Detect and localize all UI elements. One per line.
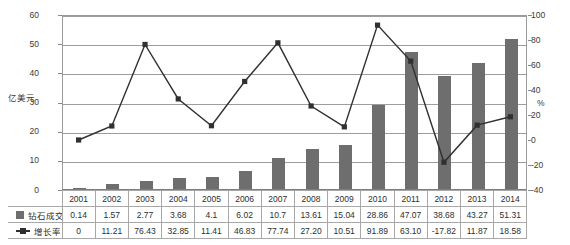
- bar: [106, 184, 119, 189]
- y-tick-label-left: 10: [0, 156, 39, 165]
- bar: [140, 181, 153, 189]
- table-cell-year: 2004: [162, 191, 195, 207]
- table-cell-year: 2007: [261, 191, 294, 207]
- legend-bar-cell: 钻石成交额: [8, 207, 62, 223]
- square-swatch-icon: [16, 211, 24, 219]
- table-cell-bar-value: 51.31: [494, 207, 527, 223]
- gridline: [63, 16, 526, 17]
- table-cell-year: 2010: [361, 191, 394, 207]
- table-cell-bar-value: 43.27: [460, 207, 493, 223]
- table-cell-line-value: -17.82: [427, 223, 460, 239]
- y-tick-label-right: 20: [531, 111, 570, 120]
- table-cell-bar-value: 3.68: [162, 207, 195, 223]
- y-tick-label-right: 100: [531, 11, 570, 20]
- table-cell-bar-value: 13.61: [294, 207, 327, 223]
- table-cell-bar-value: 28.86: [361, 207, 394, 223]
- y-tick-mark-right: [528, 65, 532, 66]
- bar: [206, 177, 219, 189]
- table-cell-year: 2001: [62, 191, 95, 207]
- table-cell-line-value: 10.51: [328, 223, 361, 239]
- table-cell-bar-value: 0.14: [62, 207, 95, 223]
- table-cell-bar-value: 10.7: [261, 207, 294, 223]
- bar: [472, 63, 485, 189]
- table-cell-line-value: 32.85: [162, 223, 195, 239]
- y-tick-label-left: 60: [0, 11, 39, 20]
- line-marker-icon: [16, 227, 30, 235]
- y-tick-label-left: 40: [0, 69, 39, 78]
- bar: [405, 52, 418, 189]
- y-tick-mark-right: [528, 140, 532, 141]
- table-cell-bar-value: 2.77: [128, 207, 161, 223]
- y-tick-mark-right: [528, 15, 532, 16]
- y-tick-label-right: -20: [531, 161, 570, 170]
- y-tick-label-right: 0: [531, 136, 570, 145]
- y-tick-label-left: 30: [0, 98, 39, 107]
- legend-line-label: 增长率: [34, 225, 61, 237]
- table-cell-bar-value: 6.02: [228, 207, 261, 223]
- table-cell-bar-value: 15.04: [328, 207, 361, 223]
- y-axis-right-title: %: [537, 98, 545, 108]
- table-cell-line-value: 11.21: [95, 223, 128, 239]
- table-cell-line-value: 91.89: [361, 223, 394, 239]
- table-cell-line-value: 76.43: [128, 223, 161, 239]
- table-row-line-series: 增长率 011.2176.4332.8511.4146.8377.7427.20…: [8, 223, 527, 239]
- bar: [505, 39, 518, 189]
- legend-line-cell: 增长率: [8, 223, 62, 239]
- table-cell-year: 2011: [394, 191, 427, 207]
- bar: [372, 105, 385, 189]
- y-tick-mark-right: [528, 190, 532, 191]
- y-tick-mark-right: [528, 40, 532, 41]
- gridline: [63, 133, 526, 134]
- table-cell-year: 2012: [427, 191, 460, 207]
- y-tick-label-right: 80: [531, 36, 570, 45]
- y-tick-mark-right: [528, 115, 532, 116]
- table-cell-line-value: 11.41: [195, 223, 228, 239]
- table-cell-year: 2009: [328, 191, 361, 207]
- bar: [239, 171, 252, 189]
- table-cell-bar-value: 47.07: [394, 207, 427, 223]
- table-cell-line-value: 18.58: [494, 223, 527, 239]
- y-tick-label-right: -40: [531, 186, 570, 195]
- table-cell-year: 2006: [228, 191, 261, 207]
- table-cell-year: 2014: [494, 191, 527, 207]
- y-tick-label-left: 20: [0, 127, 39, 136]
- table-cell-line-value: 46.83: [228, 223, 261, 239]
- y-tick-label-right: 40: [531, 86, 570, 95]
- table-cell-year: 2002: [95, 191, 128, 207]
- plot-area: [62, 15, 527, 190]
- bar: [306, 149, 319, 189]
- legend-bar-label: 钻石成交额: [28, 209, 62, 221]
- table-corner-cell: [8, 191, 62, 207]
- y-tick-label-right: 60: [531, 61, 570, 70]
- table-cell-year: 2008: [294, 191, 327, 207]
- y-tick-mark-right: [528, 90, 532, 91]
- bar: [339, 145, 352, 189]
- table-row-bar-series: 钻石成交额 0.141.572.773.684.16.0210.713.6115…: [8, 207, 527, 223]
- table-cell-year: 2003: [128, 191, 161, 207]
- table-row-years: 2001200220032004200520062007200820092010…: [8, 191, 527, 207]
- table-cell-year: 2005: [195, 191, 228, 207]
- y-tick-label-left: 50: [0, 40, 39, 49]
- gridline: [63, 104, 526, 105]
- gridline: [63, 45, 526, 46]
- table-cell-line-value: 11.87: [460, 223, 493, 239]
- table-cell-bar-value: 1.57: [95, 207, 128, 223]
- table-cell-bar-value: 4.1: [195, 207, 228, 223]
- table-cell-bar-value: 38.68: [427, 207, 460, 223]
- table-cell-line-value: 0: [62, 223, 95, 239]
- gridline: [63, 162, 526, 163]
- table-cell-line-value: 27.20: [294, 223, 327, 239]
- chart-container: 亿美元 % 0102030405060 -40-20020406080100 2…: [0, 0, 570, 245]
- table-cell-line-value: 63.10: [394, 223, 427, 239]
- bar: [272, 158, 285, 189]
- y-tick-mark-right: [528, 165, 532, 166]
- table-cell-year: 2013: [460, 191, 493, 207]
- bar: [173, 178, 186, 189]
- table-cell-line-value: 77.74: [261, 223, 294, 239]
- data-table: 2001200220032004200520062007200820092010…: [8, 190, 527, 239]
- bar: [438, 76, 451, 189]
- bar: [73, 188, 86, 189]
- gridline: [63, 74, 526, 75]
